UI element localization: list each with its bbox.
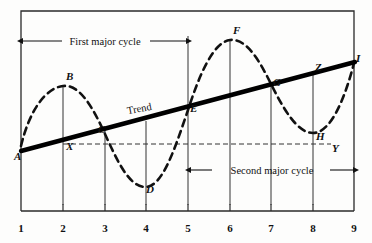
x-tick-label-8: 8 xyxy=(310,222,316,234)
second-major-cycle-label: Second major cycle xyxy=(231,165,314,176)
x-tick-label-6: 6 xyxy=(227,222,233,234)
point-label-F: F xyxy=(232,24,241,36)
point-label-B: B xyxy=(65,70,73,82)
time-series-diagram: First major cycle Second major cycle Tre… xyxy=(0,0,372,243)
point-label-D: D xyxy=(145,183,154,195)
trend-label: Trend xyxy=(126,101,153,117)
point-label-G: G xyxy=(273,76,281,88)
first-major-cycle-label: First major cycle xyxy=(69,36,140,47)
ordinate-lines xyxy=(63,36,313,205)
x-tick-label-7: 7 xyxy=(268,222,274,234)
x-tick-label-1: 1 xyxy=(18,222,24,234)
point-label-H: H xyxy=(315,130,325,142)
point-label-I: I xyxy=(355,52,361,64)
x-tick-label-9: 9 xyxy=(351,222,357,234)
x-tick-label-3: 3 xyxy=(102,222,108,234)
point-label-E: E xyxy=(189,102,197,114)
x-tick-label-5: 5 xyxy=(185,222,191,234)
second-major-cycle-annotation: Second major cycle xyxy=(191,165,353,176)
point-label-C: C xyxy=(98,123,106,135)
point-label-X: X xyxy=(65,140,74,152)
point-label-A: A xyxy=(13,150,21,162)
x-axis-tick-labels: 1 2 3 4 5 6 7 8 9 xyxy=(18,222,357,234)
x-tick-label-4: 4 xyxy=(143,222,149,234)
x-tick-label-2: 2 xyxy=(60,222,66,234)
point-label-Y: Y xyxy=(332,142,340,154)
first-major-cycle-annotation: First major cycle xyxy=(23,36,186,47)
point-label-Z: Z xyxy=(314,61,322,73)
x-axis xyxy=(21,204,354,211)
figure-page: First major cycle Second major cycle Tre… xyxy=(0,0,372,243)
